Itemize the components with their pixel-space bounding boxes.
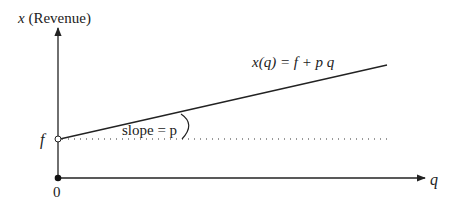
x-axis-label: q: [430, 171, 438, 189]
y-axis-label: x (Revenue): [17, 10, 91, 27]
line-equation-label: x(q) = f + p q: [251, 54, 335, 71]
intercept-point: [55, 136, 61, 142]
origin-point: [55, 175, 62, 182]
slope-arc: [181, 114, 189, 139]
origin-label: 0: [53, 184, 61, 200]
revenue-line: [60, 65, 387, 139]
revenue-diagram: x (Revenue) q 0 f x(q) = f + p q slope =…: [0, 0, 453, 205]
intercept-label: f: [40, 131, 47, 149]
slope-label: slope = p: [122, 122, 177, 138]
